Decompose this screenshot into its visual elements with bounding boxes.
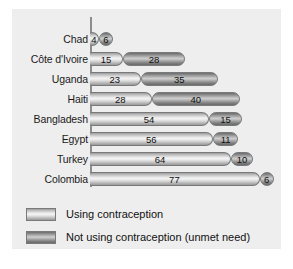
- bar-segment-using: 54: [90, 112, 209, 126]
- legend-swatch-using: [26, 208, 56, 221]
- legend-label-using: Using contraception: [66, 205, 163, 224]
- legend-item-using: Using contraception: [26, 205, 276, 224]
- bar-segment-using: 56: [90, 132, 213, 146]
- bar-segment-unmet: 6: [260, 172, 274, 186]
- bar-segment-using: 4: [90, 32, 99, 46]
- stacked-bar: 6410: [90, 149, 281, 169]
- bar-value-using: 56: [90, 133, 212, 146]
- bar-row: Chad46: [12, 29, 281, 49]
- bar-segment-using: 28: [90, 92, 152, 106]
- bar-value-unmet: 35: [142, 73, 217, 86]
- bar-segment-using: 23: [90, 72, 141, 86]
- bar-value-unmet: 6: [100, 33, 112, 46]
- bar-segment-unmet: 28: [123, 52, 185, 66]
- bar-segment-unmet: 10: [231, 152, 253, 166]
- chart-legend: Using contraceptionNot using contracepti…: [26, 205, 276, 251]
- bar-value-using: 64: [90, 153, 230, 166]
- bar-segment-using: 15: [90, 52, 123, 66]
- bar-row: Haiti2840: [12, 89, 281, 109]
- bar-value-unmet: 28: [124, 53, 184, 66]
- bar-row: Turkey6410: [12, 149, 281, 169]
- bar-segment-using: 77: [90, 172, 260, 186]
- category-label-uganda: Uganda: [12, 69, 88, 89]
- stacked-bar: 776: [90, 169, 281, 189]
- chart-panel: Chad46Côte d'Ivoire1528Uganda2335Haiti28…: [12, 9, 281, 249]
- category-label-haiti: Haiti: [12, 89, 88, 109]
- bar-value-using: 4: [90, 33, 98, 46]
- stacked-bar: 2840: [90, 89, 281, 109]
- bar-value-using: 15: [90, 53, 122, 66]
- stacked-bar: 5611: [90, 129, 281, 149]
- bar-segment-unmet: 11: [213, 132, 237, 146]
- stacked-bar: 5415: [90, 109, 281, 129]
- bar-row: Egypt5611: [12, 129, 281, 149]
- category-label-c-te-d-ivoire: Côte d'Ivoire: [12, 49, 88, 69]
- stacked-bar: 1528: [90, 49, 281, 69]
- stacked-bar: 46: [90, 29, 281, 49]
- bar-value-using: 77: [90, 173, 259, 186]
- category-label-bangladesh: Bangladesh: [12, 109, 88, 129]
- legend-item-unmet: Not using contraception (unmet need): [26, 228, 276, 247]
- bar-segment-unmet: 15: [209, 112, 242, 126]
- bar-value-unmet: 15: [210, 113, 241, 126]
- bar-row: Côte d'Ivoire1528: [12, 49, 281, 69]
- bar-value-unmet: 11: [214, 133, 236, 146]
- bar-value-unmet: 10: [232, 153, 252, 166]
- legend-label-unmet: Not using contraception (unmet need): [66, 228, 250, 247]
- bar-row: Uganda2335: [12, 69, 281, 89]
- bar-row: Bangladesh5415: [12, 109, 281, 129]
- stacked-bar: 2335: [90, 69, 281, 89]
- bar-segment-unmet: 35: [141, 72, 218, 86]
- bar-value-unmet: 40: [153, 93, 239, 106]
- bar-segment-unmet: 6: [99, 32, 113, 46]
- category-label-colombia: Colombia: [12, 169, 88, 189]
- category-label-chad: Chad: [12, 29, 88, 49]
- bar-value-unmet: 6: [261, 173, 273, 186]
- bar-segment-unmet: 40: [152, 92, 240, 106]
- legend-swatch-unmet: [26, 231, 56, 244]
- plot-area: Chad46Côte d'Ivoire1528Uganda2335Haiti28…: [12, 17, 281, 189]
- bar-row: Colombia776: [12, 169, 281, 189]
- category-label-egypt: Egypt: [12, 129, 88, 149]
- bar-value-using: 23: [90, 73, 140, 86]
- bar-value-using: 54: [90, 113, 208, 126]
- bar-segment-using: 64: [90, 152, 231, 166]
- category-label-turkey: Turkey: [12, 149, 88, 169]
- bar-value-using: 28: [90, 93, 151, 106]
